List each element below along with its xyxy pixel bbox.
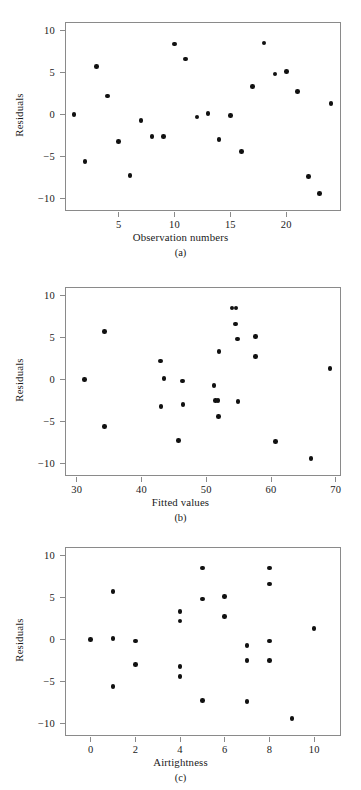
data-point	[162, 376, 167, 381]
x-axis-tick	[286, 212, 287, 217]
data-point	[212, 383, 217, 388]
data-point	[200, 566, 205, 571]
x-axis-title: Airtightness	[0, 756, 361, 768]
data-point	[312, 626, 317, 631]
data-point	[102, 424, 107, 429]
y-axis-tick-label: 10	[23, 550, 55, 561]
data-point	[245, 643, 250, 648]
plot-area	[65, 287, 341, 476]
y-axis-tick-label: −10	[23, 193, 55, 204]
data-point	[206, 111, 211, 116]
data-point	[239, 149, 244, 154]
x-axis-tick-label: 50	[201, 484, 212, 495]
data-point	[273, 72, 278, 77]
x-axis-tick-label: 10	[309, 744, 320, 755]
scatter-panel-3: 1050−5−100246810AirtightnessResiduals(c)	[0, 0, 361, 790]
x-axis-tick-label: 70	[330, 484, 341, 495]
x-axis-tick-label: 2	[133, 744, 138, 755]
x-axis-tick	[230, 212, 231, 217]
x-axis-tick-label: 10	[169, 219, 180, 230]
data-point	[222, 594, 227, 599]
y-axis-tick-label: 5	[23, 592, 55, 603]
y-axis-tick	[60, 463, 65, 464]
x-axis-tick-label: 0	[88, 744, 93, 755]
y-axis-tick	[60, 72, 65, 73]
x-axis-tick-label: 20	[281, 219, 292, 230]
data-point	[161, 134, 166, 139]
y-axis-tick	[60, 681, 65, 682]
x-axis-tick	[314, 737, 315, 742]
data-point	[234, 306, 239, 311]
data-point	[159, 404, 164, 409]
y-axis-tick	[60, 555, 65, 556]
data-point	[222, 614, 227, 619]
data-point	[200, 698, 205, 703]
data-point	[233, 322, 238, 327]
y-axis-tick-label: 10	[23, 25, 55, 36]
data-point	[181, 402, 186, 407]
data-point	[94, 64, 99, 69]
data-point	[309, 456, 314, 461]
x-axis-tick	[76, 477, 77, 482]
y-axis-tick	[60, 639, 65, 640]
data-point	[158, 359, 163, 364]
data-point	[217, 137, 222, 142]
data-point	[213, 398, 218, 403]
data-point	[183, 57, 188, 62]
data-point	[72, 112, 77, 117]
x-axis-title: Observation numbers	[0, 231, 361, 243]
data-point	[178, 674, 183, 679]
y-axis-tick	[60, 379, 65, 380]
data-point	[105, 94, 110, 99]
y-axis-tick-label: 0	[23, 634, 55, 645]
x-axis-tick	[180, 737, 181, 742]
data-point	[328, 366, 333, 371]
data-point	[133, 639, 138, 644]
data-point	[150, 134, 155, 139]
data-point	[176, 438, 181, 443]
y-axis-title: Residuals	[13, 340, 25, 420]
data-point	[216, 398, 221, 403]
plot-area	[65, 22, 341, 211]
data-point	[267, 566, 272, 571]
y-axis-tick	[60, 156, 65, 157]
x-axis-tick	[174, 212, 175, 217]
data-point	[178, 664, 183, 669]
data-point	[195, 115, 200, 120]
y-axis-tick	[60, 30, 65, 31]
x-axis-tick	[269, 737, 270, 742]
data-point	[253, 354, 258, 359]
x-axis-title: Fitted values	[0, 496, 361, 508]
x-axis-tick-label: 6	[222, 744, 227, 755]
data-point	[102, 329, 107, 334]
data-point	[245, 658, 250, 663]
data-point	[83, 159, 88, 164]
y-axis-tick	[60, 597, 65, 598]
data-point	[180, 379, 185, 384]
x-axis-tick-label: 40	[136, 484, 147, 495]
data-point	[82, 377, 87, 382]
scatter-panel-1: 1050−5−105101520Observation numbersResid…	[0, 0, 361, 790]
x-axis-tick-label: 5	[116, 219, 121, 230]
data-point	[133, 662, 138, 667]
data-point	[172, 42, 177, 47]
data-point	[284, 69, 289, 74]
x-axis-tick	[335, 477, 336, 482]
data-point	[290, 716, 295, 721]
plot-area	[65, 547, 341, 736]
data-point	[178, 609, 183, 614]
data-point	[267, 582, 272, 587]
y-axis-tick-label: 10	[23, 290, 55, 301]
data-point	[111, 636, 116, 641]
y-axis-title: Residuals	[13, 75, 25, 155]
x-axis-tick	[224, 737, 225, 742]
panel-label: (c)	[0, 772, 361, 783]
data-point	[236, 399, 241, 404]
data-point	[116, 139, 121, 144]
data-point	[230, 306, 235, 311]
x-axis-tick	[135, 737, 136, 742]
y-axis-tick	[60, 198, 65, 199]
data-point	[295, 89, 300, 94]
y-axis-tick-label: −5	[23, 676, 55, 687]
y-axis-tick-label: −5	[23, 151, 55, 162]
